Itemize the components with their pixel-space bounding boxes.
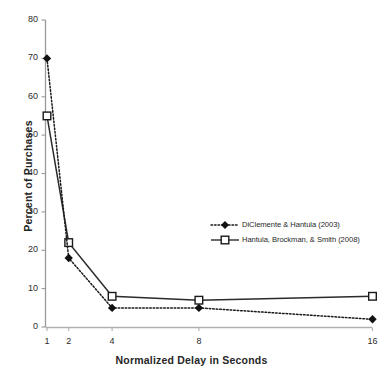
y-tick-label-70: 70 <box>16 52 38 62</box>
series-markers-open-square <box>43 112 376 304</box>
x-tick-label-4: 4 <box>100 336 124 346</box>
series-line-dotted <box>47 58 373 319</box>
y-tick-label-40: 40 <box>16 167 38 177</box>
legend-marker-solid-square-icon <box>210 233 240 247</box>
series-diclemente-hantula-2003 <box>43 54 377 323</box>
y-tick-label-80: 80 <box>16 14 38 24</box>
legend-label-diclemente-hantula-2003: DiClemente & Hantula (2003) <box>242 220 340 229</box>
series-markers-filled-diamond <box>43 54 377 323</box>
y-tick-label-20: 20 <box>16 244 38 254</box>
chart-figure: Percent of Purchases Normalized Delay in… <box>0 0 383 381</box>
series-hantula-brockman-smith-2008 <box>43 112 376 304</box>
series-line-solid <box>47 116 373 300</box>
x-tick-label-1: 1 <box>35 336 59 346</box>
legend-item-diclemente-hantula-2003: DiClemente & Hantula (2003) <box>210 217 383 232</box>
plot-area <box>0 0 383 381</box>
y-tick-label-10: 10 <box>16 283 38 293</box>
y-tick-label-30: 30 <box>16 206 38 216</box>
chart-legend: DiClemente & Hantula (2003) Hantula, Bro… <box>210 217 383 247</box>
x-axis-title: Normalized Delay in Seconds <box>0 354 383 366</box>
x-tick-label-8: 8 <box>187 336 211 346</box>
y-tick-label-60: 60 <box>16 91 38 101</box>
legend-label-hantula-brockman-smith-2008: Hantula, Brockman, & Smith (2008) <box>242 235 360 244</box>
y-tick-label-50: 50 <box>16 129 38 139</box>
x-tick-label-16: 16 <box>361 336 383 346</box>
y-tick-label-0: 0 <box>16 321 38 331</box>
x-tick-label-2: 2 <box>57 336 81 346</box>
legend-marker-dotted-diamond-icon <box>210 218 240 232</box>
legend-item-hantula-brockman-smith-2008: Hantula, Brockman, & Smith (2008) <box>210 232 383 247</box>
